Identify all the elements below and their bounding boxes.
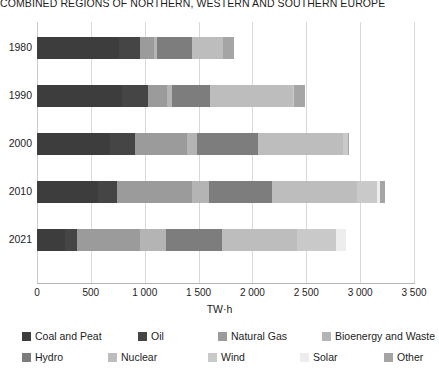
bar-1980 <box>37 37 414 59</box>
bar-segment-other <box>294 85 305 107</box>
y-axis-label-1980: 1980 <box>0 41 32 53</box>
bar-segment-oil <box>65 229 77 251</box>
legend-swatch-icon <box>22 353 31 362</box>
bar-segment-other <box>223 37 234 59</box>
gridline-3500 <box>414 22 415 283</box>
bar-2021 <box>37 229 414 251</box>
bar-segment-nuclear <box>222 229 297 251</box>
bar-segment-coal-and-peat <box>37 181 98 203</box>
legend-swatch-icon <box>300 353 309 362</box>
legend-item-bioenergy-and-waste[interactable]: Bioenergy and Waste <box>322 330 435 342</box>
legend-label: Hydro <box>35 351 63 363</box>
legend-label: Coal and Peat <box>35 330 102 342</box>
y-axis-label-2000: 2000 <box>0 137 32 149</box>
legend-item-oil[interactable]: Oil <box>138 330 164 342</box>
x-axis-tick-0: 0 <box>15 287 59 298</box>
legend-label: Solar <box>313 351 338 363</box>
bar-segment-natural-gas <box>140 37 154 59</box>
chart-title: COMBINED REGIONS OF NORTHERN, WESTERN AN… <box>0 0 439 9</box>
x-axis-tick-1000: 1 000 <box>123 287 167 298</box>
legend-label: Wind <box>221 351 245 363</box>
bar-2000 <box>37 133 414 155</box>
legend-swatch-icon <box>218 332 227 341</box>
legend-item-wind[interactable]: Wind <box>208 351 245 363</box>
chart-legend: Coal and PeatOilNatural GasBioenergy and… <box>0 327 439 373</box>
bar-segment-oil <box>98 181 117 203</box>
legend-label: Other <box>397 351 423 363</box>
x-axis-tick-1500: 1 500 <box>177 287 221 298</box>
y-axis-label-2021: 2021 <box>0 233 32 245</box>
legend-label: Oil <box>151 330 164 342</box>
x-axis-tick-500: 500 <box>69 287 113 298</box>
plot-area <box>37 22 414 283</box>
x-axis-caption: TW·h <box>0 303 439 315</box>
bar-segment-oil <box>119 37 141 59</box>
legend-swatch-icon <box>208 353 217 362</box>
legend-item-coal-and-peat[interactable]: Coal and Peat <box>22 330 102 342</box>
legend-item-natural-gas[interactable]: Natural Gas <box>218 330 287 342</box>
x-axis-line <box>37 283 415 284</box>
legend-swatch-icon <box>138 332 147 341</box>
bar-segment-nuclear <box>272 181 357 203</box>
legend-item-hydro[interactable]: Hydro <box>22 351 63 363</box>
bar-segment-natural-gas <box>77 229 141 251</box>
bar-segment-coal-and-peat <box>37 37 119 59</box>
x-axis-tick-3000: 3 000 <box>338 287 382 298</box>
bar-segment-natural-gas <box>135 133 187 155</box>
legend-item-solar[interactable]: Solar <box>300 351 338 363</box>
legend-item-nuclear[interactable]: Nuclear <box>108 351 157 363</box>
bar-segment-hydro <box>172 85 211 107</box>
y-axis-label-1990: 1990 <box>0 89 32 101</box>
bar-segment-coal-and-peat <box>37 85 122 107</box>
legend-item-other[interactable]: Other <box>384 351 423 363</box>
legend-swatch-icon <box>22 332 31 341</box>
bar-segment-wind <box>297 229 336 251</box>
bar-segment-bioenergy-and-waste <box>187 133 198 155</box>
stacked-bar-chart: COMBINED REGIONS OF NORTHERN, WESTERN AN… <box>0 0 439 373</box>
bar-segment-oil <box>110 133 135 155</box>
x-axis-tick-2500: 2 500 <box>284 287 328 298</box>
bar-segment-hydro <box>157 37 193 59</box>
bar-segment-hydro <box>209 181 272 203</box>
bar-segment-wind <box>357 181 377 203</box>
bar-segment-coal-and-peat <box>37 229 65 251</box>
legend-swatch-icon <box>322 332 331 341</box>
x-axis-tick-2000: 2 000 <box>230 287 274 298</box>
legend-swatch-icon <box>108 353 117 362</box>
x-axis-tick-3500: 3 500 <box>392 287 436 298</box>
bar-segment-nuclear <box>210 85 293 107</box>
bar-segment-coal-and-peat <box>37 133 110 155</box>
legend-label: Nuclear <box>121 351 157 363</box>
bar-segment-bioenergy-and-waste <box>140 229 165 251</box>
bar-segment-nuclear <box>192 37 223 59</box>
bar-segment-natural-gas <box>117 181 192 203</box>
bar-1990 <box>37 85 414 107</box>
legend-label: Natural Gas <box>231 330 287 342</box>
bar-segment-natural-gas <box>148 85 167 107</box>
bar-segment-oil <box>122 85 148 107</box>
bar-segment-other <box>348 133 350 155</box>
bar-segment-other <box>380 181 385 203</box>
bar-segment-hydro <box>197 133 258 155</box>
legend-swatch-icon <box>384 353 393 362</box>
bar-segment-bioenergy-and-waste <box>192 181 210 203</box>
bar-segment-nuclear <box>258 133 343 155</box>
bar-segment-solar <box>336 229 346 251</box>
bar-2010 <box>37 181 414 203</box>
y-axis-label-2010: 2010 <box>0 185 32 197</box>
legend-label: Bioenergy and Waste <box>335 330 435 342</box>
bar-segment-hydro <box>166 229 222 251</box>
